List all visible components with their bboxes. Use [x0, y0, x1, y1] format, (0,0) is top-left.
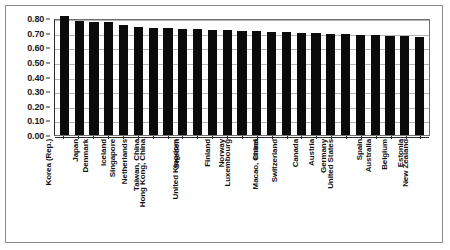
y-axis-tick-label: 0.20: [27, 102, 44, 112]
y-axis-tick-label: 0.50: [27, 58, 44, 68]
y-axis-tick-mark: [46, 33, 50, 34]
bar-slot: [87, 20, 102, 135]
x-axis-tick-label: Hong Kong, China: [138, 139, 147, 207]
x-axis-tick-mark: [197, 136, 198, 139]
x-axis-tick-label: Netherlands: [120, 139, 129, 184]
bar: [311, 33, 320, 135]
x-axis-tick-mark: [376, 136, 377, 139]
bar: [193, 29, 202, 135]
x-axis-tick-mark: [346, 136, 347, 139]
y-axis-tick-mark: [46, 77, 50, 78]
x-axis-slot: United States: [339, 137, 354, 241]
x-axis-tick-label: United States: [326, 139, 335, 189]
y-axis-tick-label: 0.40: [27, 73, 44, 83]
bar-slot: [72, 20, 87, 135]
x-axis-tick-mark: [63, 136, 64, 139]
bar: [75, 21, 84, 135]
bar-slot: [116, 20, 131, 135]
y-axis-tick-mark: [46, 136, 50, 137]
x-axis-tick-label: Iceland: [99, 139, 108, 166]
bar: [400, 36, 409, 135]
x-axis-tick-label: Canada: [292, 139, 301, 167]
bar-slot: [412, 20, 427, 135]
y-axis-tick-label: 0.80: [27, 14, 44, 24]
bar-slot: [294, 20, 309, 135]
bar: [385, 36, 394, 135]
bar-slot: [309, 20, 324, 135]
x-axis-slot: Luxembourg: [235, 137, 250, 241]
y-axis-tick-label: 0.00: [27, 131, 44, 141]
bar: [282, 32, 291, 135]
bar: [356, 35, 365, 135]
chart-figure: 0.800.700.600.500.400.300.200.100.00 Kor…: [5, 5, 443, 243]
bar-slot: [383, 20, 398, 135]
x-axis-tick-mark: [391, 136, 392, 139]
bar: [149, 28, 158, 135]
bar-slot: [161, 20, 176, 135]
bar: [267, 32, 276, 135]
x-axis-tick-label: Austria: [307, 139, 316, 166]
x-axis-tick-label: Finland: [203, 139, 212, 167]
bar-slot: [397, 20, 412, 135]
bar-slot: [101, 20, 116, 135]
bar: [252, 31, 261, 135]
bar-slot: [220, 20, 235, 135]
y-axis-tick-mark: [46, 106, 50, 107]
bar-slot: [131, 20, 146, 135]
y-axis-tick-mark: [46, 48, 50, 49]
y-axis-tick-label: 0.70: [27, 29, 44, 39]
x-axis-tick-label: Luxembourg: [223, 139, 232, 186]
x-axis-tick-mark: [316, 136, 317, 139]
x-axis-tick-label: Japan: [72, 139, 81, 162]
y-axis-tick-mark: [46, 121, 50, 122]
y-axis-tick-mark: [46, 62, 50, 63]
x-axis-tick-mark: [420, 136, 421, 139]
x-axis-tick-mark: [153, 136, 154, 139]
x-axis-tick-mark: [93, 136, 94, 139]
y-axis-tick-mark: [46, 92, 50, 93]
bar-slot: [264, 20, 279, 135]
x-axis-tick-label: Korea (Rep.): [45, 139, 54, 185]
bar-slot: [57, 20, 72, 135]
bar-slot: [175, 20, 190, 135]
y-axis-tick-label: 0.60: [27, 43, 44, 53]
x-axis-tick-label: Singapore: [108, 139, 117, 177]
x-axis-tick-mark: [242, 136, 243, 139]
y-axis-tick-label: 0.30: [27, 87, 44, 97]
x-axis-tick-label: United Kingdom: [172, 139, 181, 199]
x-axis-slot: Korea (Rep.): [56, 137, 71, 241]
bar: [208, 30, 217, 135]
y-axis: 0.800.700.600.500.400.300.200.100.00: [6, 6, 52, 149]
bar-slot: [235, 20, 250, 135]
x-axis-tick-label: Belgium: [380, 139, 389, 170]
y-axis-tick-mark: [46, 19, 50, 20]
bar-slot: [353, 20, 368, 135]
bar: [371, 35, 380, 135]
x-axis-tick-label: Australia: [364, 139, 373, 172]
x-axis-tick-mark: [168, 136, 169, 139]
bar-slot: [249, 20, 264, 135]
bar: [89, 22, 98, 135]
bar: [223, 30, 232, 135]
x-axis-slot: Taiwan, China: [145, 137, 160, 241]
plot-area: [54, 19, 430, 136]
x-axis-tick-mark: [287, 136, 288, 139]
bar-series: [55, 20, 429, 135]
x-axis-tick-mark: [212, 136, 213, 139]
x-axis-slot: New Zealand: [413, 137, 428, 241]
bar: [134, 27, 143, 135]
x-axis-tick-label: Macao, China: [251, 139, 260, 189]
bar-slot: [205, 20, 220, 135]
bar-slot: [338, 20, 353, 135]
bar-slot: [279, 20, 294, 135]
x-axis: Korea (Rep.)JapanDenmarkIcelandSingapore…: [54, 137, 430, 241]
bar: [119, 25, 128, 135]
x-axis-tick-label: Switzerland: [269, 139, 278, 182]
bar: [60, 16, 69, 135]
x-axis-tick-label: New Zealand: [401, 139, 410, 187]
bar-slot: [146, 20, 161, 135]
x-axis-tick-mark: [301, 136, 302, 139]
bar: [163, 28, 172, 135]
bar: [415, 37, 424, 135]
bar-slot: [368, 20, 383, 135]
